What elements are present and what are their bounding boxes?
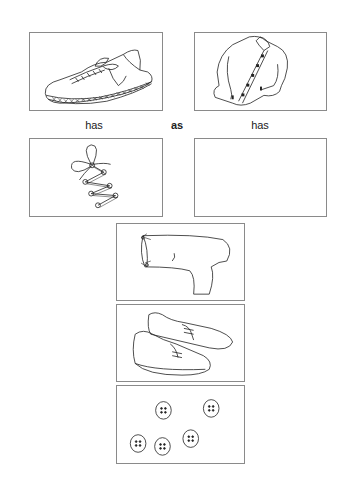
left-relation-word: has (80, 119, 108, 131)
button-1 (156, 402, 172, 420)
shirt-card (194, 32, 327, 111)
loafers-icon (117, 305, 244, 381)
sock-choice-card[interactable] (116, 223, 245, 301)
shoelaces-icon (30, 139, 162, 216)
sock-icon (117, 224, 244, 300)
shoelaces-card (29, 138, 163, 217)
analogy-as-word: as (166, 119, 188, 131)
sneaker-icon (30, 33, 162, 110)
buttons-choice-card[interactable] (116, 385, 245, 464)
button-3 (183, 430, 199, 448)
loafers-choice-card[interactable] (116, 304, 245, 382)
button-4 (130, 435, 146, 453)
buttons-icon (117, 386, 244, 463)
answer-blank-card[interactable] (194, 138, 327, 217)
button-2 (203, 400, 219, 418)
button-5 (155, 438, 171, 456)
sneaker-card (29, 32, 163, 111)
shirt-icon (195, 33, 326, 110)
right-relation-word: has (246, 119, 274, 131)
